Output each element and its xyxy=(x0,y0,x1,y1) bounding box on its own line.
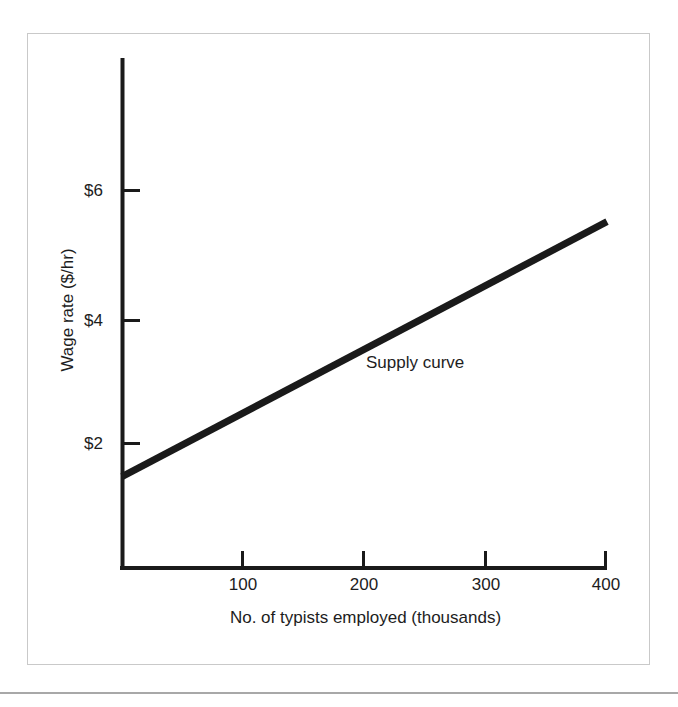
supply-curve-label: Supply curve xyxy=(366,353,464,373)
x-tick-label-200: 200 xyxy=(329,575,399,595)
x-axis-title: No. of typists employed (thousands) xyxy=(123,608,608,628)
bottom-divider xyxy=(0,692,678,694)
x-tick-label-400: 400 xyxy=(571,575,641,595)
x-tick-label-300: 300 xyxy=(451,575,521,595)
y-axis-title: Wage rate ($/hr) xyxy=(58,248,78,371)
x-tick-label-100: 100 xyxy=(208,575,278,595)
y-tick-label-2: $2 xyxy=(57,434,103,454)
supply-curve-series xyxy=(122,222,607,477)
supply-curve-chart: $6 $4 $2 100 200 300 400 Wage rate ($/hr… xyxy=(0,0,678,707)
y-tick-label-6: $6 xyxy=(57,181,103,201)
chart-canvas xyxy=(0,0,678,707)
